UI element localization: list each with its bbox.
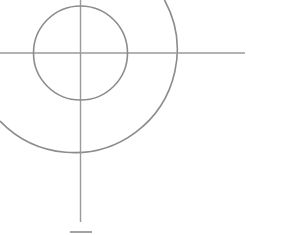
- crosshair-target-figure: [0, 0, 305, 235]
- diagram-canvas: [0, 0, 305, 235]
